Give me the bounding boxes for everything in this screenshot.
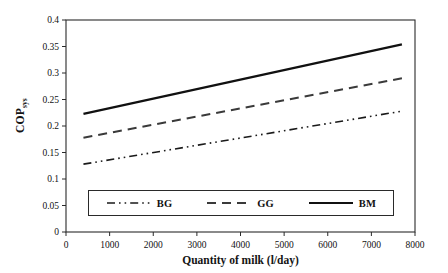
series-line-BM	[83, 44, 401, 113]
series-line-BG	[83, 111, 401, 164]
legend-label-BM: BM	[359, 198, 377, 209]
legend-label-GG: GG	[257, 198, 274, 209]
legend-swatch-BG	[106, 198, 152, 208]
legend-entry-BG[interactable]: BG	[106, 198, 173, 209]
chart-legend: BGGGBM	[88, 190, 394, 216]
legend-label-BG: BG	[157, 198, 173, 209]
plot-area	[0, 0, 448, 273]
chart-figure: COPsys 00.050.10.150.20.250.30.350.4 010…	[0, 0, 448, 273]
legend-entry-GG[interactable]: GG	[206, 198, 274, 209]
legend-entry-BM[interactable]: BM	[308, 198, 377, 209]
x-axis-title: Quantity of milk (l/day)	[66, 254, 415, 266]
legend-swatch-BM	[308, 198, 354, 208]
series-line-GG	[83, 78, 401, 137]
legend-swatch-GG	[206, 198, 252, 208]
